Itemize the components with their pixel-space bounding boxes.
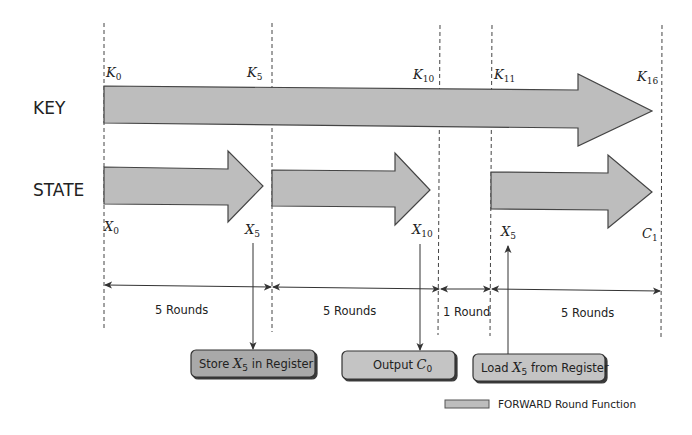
state-arrow-rounds-1-5 — [104, 151, 263, 222]
store-register-box: Store X5 in Register — [191, 350, 315, 377]
interval-label-3: 1 Round — [443, 305, 490, 319]
key-label-k5: K5 — [246, 65, 263, 82]
state-label-x5: X5 — [244, 222, 260, 239]
load-register-box: Load X5 from Register — [473, 354, 609, 381]
interval-label-2: 5 Rounds — [323, 304, 376, 318]
output-register-label: Output C0 — [373, 357, 433, 374]
store-register-label: Store X5 in Register — [199, 356, 313, 373]
state-arrow-rounds-12-16 — [491, 155, 652, 228]
interval-label-4: 5 Rounds — [561, 306, 614, 320]
legend: FORWARD Round Function — [445, 398, 636, 410]
interval-arrow-2 — [273, 287, 439, 289]
interval-arrow-4 — [492, 289, 660, 291]
legend-label: FORWARD Round Function — [498, 398, 636, 410]
interval-arrow-1 — [105, 285, 271, 287]
load-register-label: Load X5 from Register — [481, 360, 609, 377]
state-row-label: STATE — [33, 180, 84, 200]
state-label-x5-reload: X5 — [500, 224, 516, 241]
state-label-x10: X10 — [411, 222, 433, 239]
key-schedule-arrow — [104, 74, 652, 146]
key-label-k16: K16 — [636, 69, 658, 86]
key-label-k11: K11 — [493, 67, 515, 84]
state-label-c1: C1 — [642, 226, 658, 243]
forward-round-schedule-diagram: KEY STATE K0 K5 K10 K11 K16 X0 X5 X10 X5… — [0, 0, 692, 435]
key-label-k0: K0 — [105, 65, 122, 82]
state-labels: X0 X5 X10 X5 C1 — [103, 219, 658, 243]
boundary-line-16 — [661, 25, 662, 338]
state-arrow-rounds-6-10 — [272, 153, 430, 225]
key-label-k10: K10 — [412, 67, 434, 84]
interval-label-1: 5 Rounds — [155, 303, 208, 317]
state-label-x0: X0 — [103, 219, 119, 236]
legend-swatch — [445, 400, 489, 408]
key-labels: K0 K5 K10 K11 K16 — [105, 65, 658, 86]
output-register-box: Output C0 — [342, 351, 455, 379]
round-intervals: 5 Rounds 5 Rounds 1 Round 5 Rounds — [105, 285, 660, 320]
key-row-label: KEY — [33, 98, 66, 118]
